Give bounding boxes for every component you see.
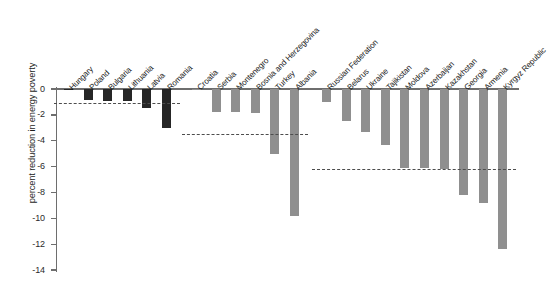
y-tick-label: -12 [5,240,45,249]
bar [142,89,151,108]
bar [322,89,331,102]
bar [440,89,449,169]
group-average-line [54,103,180,104]
bar [361,89,370,132]
bar [162,89,171,128]
y-tick-label: 0 [5,85,45,94]
group-average-line [182,134,308,135]
bar [123,89,132,101]
bar [212,89,221,112]
bar [381,89,390,145]
bar [251,89,260,113]
bar [400,89,409,168]
bar [270,89,279,154]
bar [342,89,351,121]
bar [459,89,468,195]
y-tick-label: -14 [5,266,45,275]
category-label: Kyrgyz Republic [503,47,548,92]
bar [420,89,429,168]
bar-series [57,89,519,270]
bar [479,89,488,203]
bar [290,89,299,216]
y-tick-label: -10 [5,214,45,223]
y-tick-label: -4 [5,136,45,145]
bar [84,89,93,100]
y-tick-label: -2 [5,110,45,119]
y-tick-label: -6 [5,162,45,171]
y-tick-label: -8 [5,188,45,197]
bar [231,89,240,112]
group-average-line [312,169,516,170]
